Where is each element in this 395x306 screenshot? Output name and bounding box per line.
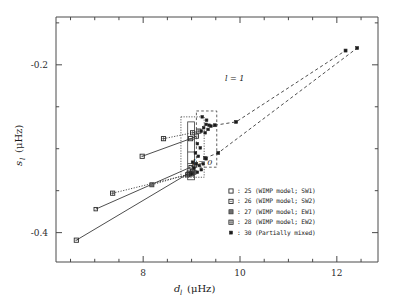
series-line — [96, 166, 195, 210]
data-marker-filled-square — [190, 173, 193, 176]
data-marker-filled-square — [200, 130, 203, 133]
legend-entry: : 25 (WIMP model; SW1) — [229, 187, 316, 194]
scatter-plot: 8 10 12 -0.2 -0.4 l = 1 l = 0 d l (μHz) … — [0, 0, 395, 306]
x-tick-label: 12 — [331, 268, 342, 278]
figure-container: 8 10 12 -0.2 -0.4 l = 1 l = 0 d l (μHz) … — [0, 0, 395, 306]
data-marker-filled-square — [193, 167, 196, 170]
y-axis-title-symbol: s — [13, 161, 24, 166]
legend-label: : 30 (Partially mixed) — [237, 229, 316, 237]
legend-entry: : 30 (Partially mixed) — [230, 229, 316, 237]
series-group — [111, 172, 194, 195]
data-marker-filled-square — [230, 231, 233, 234]
legend-label: : 26 (WIMP model; SW2) — [237, 197, 316, 204]
x-tick-label: 8 — [140, 268, 146, 278]
data-marker-dotted-square — [140, 154, 144, 158]
y-axis-title-subscript: l — [19, 158, 27, 160]
series-line — [215, 51, 346, 126]
annotation-l-equals-0: l = 0 — [193, 158, 212, 167]
series-group — [213, 49, 347, 127]
y-axis-title-unit: (μHz) — [13, 125, 24, 153]
y-tick-label: -0.4 — [31, 228, 49, 238]
data-marker-filled-square — [196, 171, 199, 174]
legend-entry: : 27 (WIMP model; EW1) — [229, 208, 316, 215]
data-marker-filled-square — [201, 116, 204, 119]
legend: : 25 (WIMP model; SW1): 26 (WIMP model; … — [229, 187, 316, 237]
data-marker-crossed-square — [229, 220, 233, 224]
x-axis-title-subscript: l — [180, 289, 182, 297]
legend-label: : 28 (WIMP model; EW2) — [237, 218, 316, 225]
data-marker-filled-square — [344, 49, 347, 52]
data-marker-filled-square — [204, 131, 207, 134]
data-marker-grey-square — [229, 210, 233, 214]
data-marker-filled-square — [217, 151, 220, 154]
data-marker-dotted-square — [74, 238, 78, 242]
legend-label: : 27 (WIMP model; EW1) — [237, 208, 316, 215]
x-tick-label: 10 — [234, 268, 246, 278]
data-marker-filled-square — [210, 125, 213, 128]
series-line — [113, 174, 192, 193]
y-tick-label: -0.2 — [31, 60, 48, 70]
y-axis-title: s l (μHz) — [13, 125, 27, 166]
series-group — [204, 47, 359, 160]
x-axis-title-unit: (μHz) — [187, 283, 215, 294]
legend-label: : 25 (WIMP model; SW1) — [237, 187, 316, 194]
series-group — [94, 164, 196, 211]
x-axis-title: d l (μHz) — [174, 283, 215, 297]
data-marker-filled-square — [356, 47, 359, 50]
series-line — [205, 48, 357, 158]
data-marker-filled-square — [235, 120, 238, 123]
series-line — [76, 171, 192, 240]
data-marker-crossed-square — [111, 191, 115, 195]
data-marker-dotted-square — [229, 199, 233, 203]
data-marker-open-square-small — [229, 189, 233, 193]
data-marker-grey-square — [150, 183, 154, 187]
series-group — [74, 169, 194, 242]
y-tick-labels: -0.2 -0.4 — [31, 60, 49, 238]
data-marker-filled-square — [213, 124, 216, 127]
data-marker-filled-square — [205, 119, 208, 122]
data-marker-dotted-square — [189, 137, 193, 141]
data-marker-filled-square — [207, 128, 210, 131]
data-marker-filled-square — [196, 142, 199, 145]
data-marker-filled-square — [194, 152, 197, 155]
data-marker-filled-square — [200, 168, 203, 171]
annotation-l-equals-1: l = 1 — [225, 74, 244, 83]
data-marker-filled-square — [202, 126, 205, 129]
data-marker-filled-square — [205, 123, 208, 126]
x-tick-labels: 8 10 12 — [140, 268, 342, 278]
legend-entry: : 26 (WIMP model; SW2) — [229, 197, 316, 204]
data-marker-filled-square — [199, 147, 202, 150]
legend-entry: : 28 (WIMP model; EW2) — [229, 218, 316, 225]
data-marker-crossed-square — [161, 137, 165, 141]
